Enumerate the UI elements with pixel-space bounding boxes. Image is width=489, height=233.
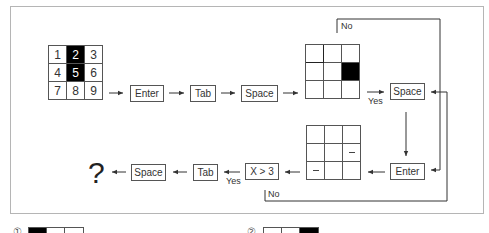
tab-step-box: Tab xyxy=(190,85,216,102)
grid-cell xyxy=(324,81,342,99)
option-2-number: ② xyxy=(247,226,256,233)
dash-mark xyxy=(349,152,355,153)
grid-cell-dash xyxy=(307,162,325,180)
enter-step-box: Enter xyxy=(130,85,164,102)
start-grid-cell: 9 xyxy=(85,82,103,100)
grid-cell xyxy=(306,63,324,81)
yes-label-bottom: Yes xyxy=(226,176,241,186)
option-1-grid[interactable] xyxy=(28,227,84,233)
condition-box: X > 3 xyxy=(245,163,279,180)
grid-cell xyxy=(325,126,343,144)
option-cell-filled xyxy=(300,228,318,233)
dash-mark xyxy=(313,170,319,171)
grid-cell xyxy=(324,63,342,81)
no-label-bottom: No xyxy=(268,189,280,199)
start-grid-cell: 4 xyxy=(49,64,67,82)
start-grid-cell: 8 xyxy=(67,82,85,100)
state-grid xyxy=(306,125,361,180)
grid-cell xyxy=(342,81,360,99)
grid-cell xyxy=(307,144,325,162)
option-2-grid[interactable] xyxy=(263,227,319,233)
grid-cell-dash xyxy=(343,144,361,162)
option-1-number: ① xyxy=(13,226,22,233)
grid-cell xyxy=(324,45,342,63)
option-cell-filled xyxy=(29,228,47,233)
yes-label-top: Yes xyxy=(368,96,383,106)
option-cell xyxy=(47,228,65,233)
result-question-mark: ? xyxy=(88,158,105,188)
enter-loop-box: Enter xyxy=(390,163,425,180)
flow-connectors xyxy=(0,0,489,233)
start-grid-cell-filled: 2 xyxy=(67,46,85,64)
option-cell xyxy=(264,228,282,233)
start-grid: 1 2 3 4 5 6 7 8 9 xyxy=(48,45,103,100)
grid-cell xyxy=(343,162,361,180)
option-cell xyxy=(65,228,83,233)
space-loop-box: Space xyxy=(390,83,425,100)
tab-final-box: Tab xyxy=(193,164,218,181)
start-grid-cell-filled: 5 xyxy=(67,64,85,82)
space-final-box: Space xyxy=(131,164,166,181)
grid-cell xyxy=(325,162,343,180)
grid-cell xyxy=(306,81,324,99)
intermediate-grid xyxy=(305,44,360,99)
grid-cell xyxy=(325,144,343,162)
grid-cell xyxy=(306,45,324,63)
space-step-box: Space xyxy=(241,85,278,102)
start-grid-cell: 3 xyxy=(85,46,103,64)
start-grid-cell: 7 xyxy=(49,82,67,100)
grid-cell xyxy=(343,126,361,144)
start-grid-cell: 1 xyxy=(49,46,67,64)
grid-cell xyxy=(307,126,325,144)
no-label-top: No xyxy=(341,21,353,31)
grid-cell xyxy=(342,45,360,63)
option-cell xyxy=(282,228,300,233)
start-grid-cell: 6 xyxy=(85,64,103,82)
grid-cell-filled xyxy=(342,63,360,81)
